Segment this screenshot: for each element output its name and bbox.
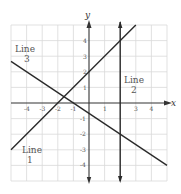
coordinate-plane: x y -4 -3 -2 -1 1 3 4 4 3 2 1 -1 -2 -3 -… xyxy=(0,0,181,194)
y-tick: -3 xyxy=(80,146,86,153)
x-axis-label: x xyxy=(171,98,176,108)
x-tick: 3 xyxy=(134,105,138,112)
svg-text:1: 1 xyxy=(27,155,33,165)
y-axis-label: y xyxy=(84,10,91,20)
x-tick: -2 xyxy=(55,105,61,112)
svg-text:Line: Line xyxy=(15,44,35,54)
line-2-label: Line 2 xyxy=(124,75,144,95)
y-tick: 3 xyxy=(83,53,87,60)
line-2-arrow-up-icon xyxy=(118,21,122,28)
svg-text:3: 3 xyxy=(24,54,30,64)
x-tick: -1 xyxy=(71,105,77,112)
line-3-label: Line 3 xyxy=(15,44,35,64)
line-2-arrow-down-icon xyxy=(118,176,122,183)
x-tick: 4 xyxy=(150,105,154,112)
y-tick: -1 xyxy=(80,115,86,122)
svg-text:2: 2 xyxy=(131,85,137,95)
x-tick: -4 xyxy=(24,105,30,112)
x-tick: 1 xyxy=(103,105,107,112)
svg-text:Line: Line xyxy=(22,145,42,155)
x-tick: -3 xyxy=(40,105,46,112)
y-tick: 4 xyxy=(83,37,87,44)
y-tick: -2 xyxy=(80,130,86,137)
y-axis-arrow-icon xyxy=(87,20,92,28)
y-axis-arrow-down-icon xyxy=(87,177,91,184)
y-tick: -4 xyxy=(80,161,86,168)
y-tick: 1 xyxy=(83,84,87,91)
svg-text:Line: Line xyxy=(124,75,144,85)
line-1-label: Line 1 xyxy=(22,145,42,165)
